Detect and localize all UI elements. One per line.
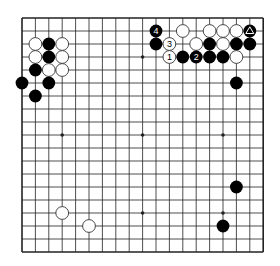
black-stone-disc [217,51,230,64]
white-stone-disc [83,220,96,233]
move-number-label: 2 [194,52,199,62]
black-stone-disc [203,38,216,51]
black-stone-disc [243,38,256,51]
black-stone: 4 [150,25,163,38]
black-stone-disc [42,77,55,90]
white-stone: 1 [163,51,176,64]
white-stone-disc [56,207,69,220]
white-stone [230,51,243,64]
white-stone [217,38,230,51]
black-stone [230,181,243,194]
black-stone [203,51,216,64]
black-stone [29,90,42,103]
white-stone [29,51,42,64]
star-point [221,133,225,137]
white-stone-disc [29,51,42,64]
white-stone-disc [56,64,69,77]
black-stone: 2 [190,51,203,64]
black-stone-disc [29,90,42,103]
white-stone [217,25,230,38]
black-stone [16,77,29,90]
black-stone [176,51,189,64]
white-stone [42,64,55,77]
white-stone [56,64,69,77]
black-stone [42,51,55,64]
white-stone-disc [190,38,203,51]
black-stone [29,64,42,77]
white-stone-disc [56,38,69,51]
white-stone [29,38,42,51]
black-stone-disc [230,38,243,51]
black-stone-disc [217,220,230,233]
white-stone-disc [42,64,55,77]
white-stone-disc [176,25,189,38]
black-stone [230,38,243,51]
black-stone [42,77,55,90]
black-stone-disc [16,77,29,90]
white-stone [56,207,69,220]
white-stone [176,25,189,38]
white-stone: 3 [163,38,176,51]
black-stone [42,38,55,51]
white-stone-disc [230,51,243,64]
black-stone [243,38,256,51]
move-number-label: 1 [167,52,172,62]
white-stone [230,25,243,38]
black-stone [217,51,230,64]
go-board-canvas[interactable]: 4312 [0,0,280,266]
star-point [141,211,145,215]
star-point [60,133,64,137]
black-stone-disc [230,77,243,90]
black-stone [150,38,163,51]
black-stone-disc [29,64,42,77]
white-stone [203,25,216,38]
white-stone [56,51,69,64]
black-stone-disc [230,181,243,194]
white-stone-disc [217,25,230,38]
white-stone-disc [203,25,216,38]
black-stone [217,220,230,233]
white-stone-disc [230,25,243,38]
black-stone [243,25,256,38]
black-stone [203,38,216,51]
white-stone [83,220,96,233]
black-stone [230,77,243,90]
star-point [141,133,145,137]
star-point [221,211,225,215]
black-stone-disc [150,38,163,51]
black-stone-disc [42,38,55,51]
black-stone-disc [42,51,55,64]
black-stone-disc [203,51,216,64]
black-stone-disc [176,51,189,64]
go-board[interactable]: 4312 [0,0,280,266]
white-stone-disc [29,38,42,51]
move-number-label: 4 [153,26,158,36]
white-stone-disc [217,38,230,51]
move-number-label: 3 [167,39,172,49]
star-point [141,55,145,59]
white-stone-disc [56,51,69,64]
stones-layer: 4312 [16,25,257,233]
white-stone [56,38,69,51]
white-stone [190,38,203,51]
